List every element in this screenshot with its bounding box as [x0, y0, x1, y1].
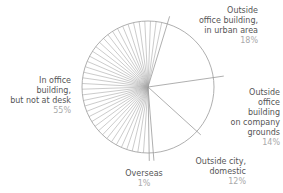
slice-divider [148, 76, 224, 87]
pct-urban: 18% [199, 36, 258, 46]
pct-outside-city: 12% [196, 177, 246, 187]
label-in-office: In office building, but not at desk 55% [10, 76, 71, 116]
pct-in-office: 55% [10, 106, 71, 116]
hatch-line [90, 56, 148, 87]
label-urban: Outside office building, in urban area 1… [199, 6, 258, 46]
label-overseas: Overseas 1% [124, 169, 164, 189]
pct-overseas: 1% [124, 179, 164, 189]
slice-divider [148, 16, 170, 87]
hatch-line [117, 28, 148, 87]
pct-company-grounds: 14% [231, 138, 280, 148]
label-outside-city: Outside city, domestic 12% [196, 157, 246, 187]
slice-divider [148, 87, 201, 135]
label-company-grounds: Outside office building on company groun… [231, 88, 280, 148]
